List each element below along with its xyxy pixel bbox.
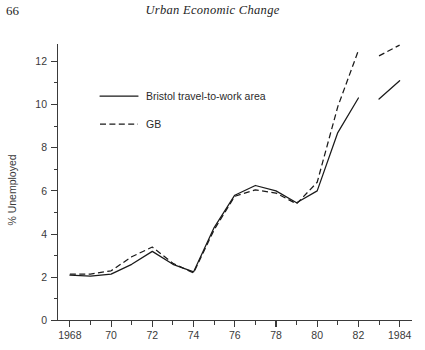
x-tick-label: 80	[311, 329, 323, 341]
x-tick-label: 72	[146, 329, 158, 341]
chart-legend: Bristol travel-to-work areaGB	[100, 90, 266, 130]
y-tick-label: 10	[35, 98, 47, 110]
legend-label-gb: GB	[146, 118, 161, 130]
x-axis-ticks: 1968707274767880821984	[58, 321, 411, 342]
series-gb	[70, 50, 359, 274]
y-axis-ticks: 024681012	[35, 55, 57, 326]
page-header: 66 Urban Economic Change	[0, 0, 425, 22]
y-tick-label: 4	[41, 228, 47, 240]
x-tick-label: 1984	[388, 329, 412, 341]
running-head: Urban Economic Change	[0, 3, 425, 18]
y-tick-label: 6	[41, 185, 47, 197]
x-tick-label: 1968	[58, 329, 82, 341]
series-gb-post-break	[379, 45, 400, 56]
chart-axes	[58, 44, 413, 321]
legend-label-bristol: Bristol travel-to-work area	[146, 90, 266, 102]
y-tick-label: 0	[41, 314, 47, 326]
y-tick-label: 8	[41, 141, 47, 153]
y-tick-label: 12	[35, 55, 47, 67]
x-tick-label: 70	[105, 329, 117, 341]
series-bristol-post-break	[379, 81, 400, 99]
unemployment-line-chart-figure: 024681012 1968707274767880821984 % Unemp…	[0, 22, 425, 350]
x-tick-label: 76	[229, 329, 241, 341]
x-tick-label: 78	[270, 329, 282, 341]
chart-series	[70, 45, 400, 276]
chart-canvas: 024681012 1968707274767880821984 % Unemp…	[0, 22, 425, 350]
y-axis-title: % Unemployed	[6, 154, 18, 225]
series-bristol	[70, 98, 359, 276]
x-tick-label: 82	[353, 329, 365, 341]
x-tick-label: 74	[188, 329, 200, 341]
y-tick-label: 2	[41, 271, 47, 283]
